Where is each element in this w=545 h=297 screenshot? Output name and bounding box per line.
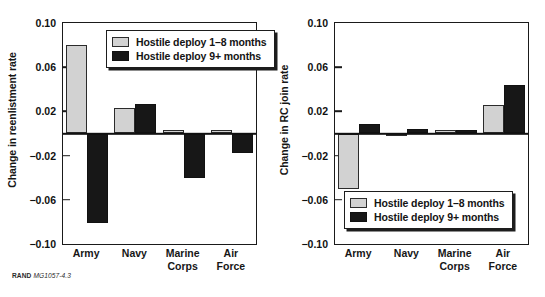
bar: [135, 104, 156, 134]
bar: [66, 45, 87, 133]
legend-left: Hostile deploy 1–8 months Hostile deploy…: [106, 30, 275, 68]
legend-item-dark: Hostile deploy 9+ months: [112, 49, 267, 63]
bar: [184, 134, 205, 178]
y-tick-label: −0.10: [301, 238, 335, 250]
figure-root: Change in reenlistment rate 0.100.060.02…: [0, 0, 545, 297]
y-tick-label: 0.02: [308, 105, 335, 117]
legend-item-light: Hostile deploy 1–8 months: [350, 196, 505, 210]
legend-item-light: Hostile deploy 1–8 months: [112, 35, 267, 49]
x-axis-label: AirForce: [489, 247, 518, 272]
legend-right: Hostile deploy 1–8 months Hostile deploy…: [344, 191, 513, 229]
y-tick-label: −0.10: [29, 238, 63, 250]
chart-panel-rc-join: Change in RC join rate 0.100.060.02−0.02…: [272, 0, 544, 268]
x-axis-label: MarineCorps: [166, 247, 200, 272]
y-axis-title-left: Change in reenlistment rate: [2, 0, 22, 240]
source-id: MG1057-4.3: [33, 272, 71, 279]
y-axis-title-right: Change in RC join rate: [274, 0, 294, 240]
bar: [338, 134, 359, 189]
source-prefix: RAND: [12, 272, 31, 279]
x-axis-label: Army: [73, 247, 100, 260]
zero-baseline: [335, 132, 528, 134]
legend-swatch-dark-icon: [350, 212, 367, 222]
source-note: RAND MG1057-4.3: [12, 272, 71, 279]
bar: [504, 85, 525, 134]
legend-item-dark: Hostile deploy 9+ months: [350, 210, 505, 224]
legend-label-light: Hostile deploy 1–8 months: [136, 36, 267, 48]
y-tick-label: 0.02: [36, 105, 63, 117]
y-tick-label: 0.06: [36, 61, 63, 73]
y-tick-label: −0.02: [29, 150, 63, 162]
legend-swatch-dark-icon: [112, 51, 129, 61]
x-axis-labels-right: ArmyNavyMarineCorpsAirForce: [334, 247, 529, 281]
x-axis-label: AirForce: [217, 247, 246, 272]
bar: [232, 134, 253, 154]
legend-swatch-light-icon: [112, 37, 129, 47]
zero-baseline: [63, 132, 256, 134]
legend-swatch-light-icon: [350, 198, 367, 208]
legend-label-dark: Hostile deploy 9+ months: [374, 211, 499, 223]
chart-panel-reenlistment: Change in reenlistment rate 0.100.060.02…: [0, 0, 272, 268]
y-tick-label: −0.02: [301, 150, 335, 162]
y-tick-label: 0.10: [36, 17, 63, 29]
y-tick-label: −0.06: [301, 194, 335, 206]
x-axis-label: MarineCorps: [438, 247, 472, 272]
bar: [483, 105, 504, 134]
legend-label-light: Hostile deploy 1–8 months: [374, 197, 505, 209]
bar: [114, 108, 135, 133]
y-tick-label: 0.10: [308, 17, 335, 29]
x-axis-labels-left: ArmyNavyMarineCorpsAirForce: [62, 247, 257, 281]
x-axis-label: Navy: [394, 247, 419, 260]
x-axis-label: Army: [345, 247, 372, 260]
x-axis-label: Navy: [122, 247, 147, 260]
legend-label-dark: Hostile deploy 9+ months: [136, 50, 261, 62]
y-tick-label: −0.06: [29, 194, 63, 206]
bar: [87, 134, 108, 224]
y-tick-label: 0.06: [308, 61, 335, 73]
